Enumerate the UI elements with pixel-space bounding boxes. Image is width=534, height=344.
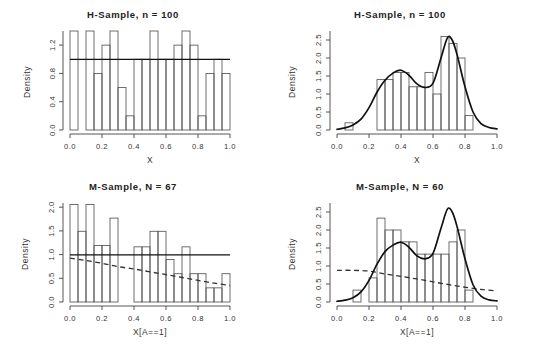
x-axis-label: X (147, 155, 153, 165)
x-axis-group: 0.0 0.2 0.4 0.6 0.8 1.0 (331, 134, 503, 151)
x-tick-label: 0.8 (192, 314, 204, 323)
x-axis-label: X[A==1] (400, 327, 434, 337)
x-tick-label: 0.8 (459, 314, 471, 323)
y-axis-group: 0.0 0.5 1.0 1.5 2.0 2.5 (314, 31, 330, 136)
panel-title: H-Sample, n = 100 (354, 9, 446, 20)
histogram-bar (126, 116, 134, 130)
y-tick-label: 1.0 (314, 260, 323, 272)
y-axis-group: 0.0 0.5 1.0 1.5 2.0 2.5 (314, 203, 330, 308)
histogram-bar (134, 59, 142, 130)
panel-top-right: H-Sample, n = 100 Density X 0.0 0.5 1.0 … (267, 0, 534, 172)
y-tick-label: 0.0 (314, 296, 323, 308)
x-tick-label: 0.0 (64, 314, 76, 323)
histogram-bar (401, 242, 409, 302)
histogram-bar (70, 31, 78, 130)
y-tick-label: 2.5 (314, 34, 323, 46)
histogram-bar (94, 245, 102, 302)
y-tick-label: 2.0 (47, 201, 56, 213)
y-tick-label: 1.0 (314, 88, 323, 100)
panel-top-right-svg: H-Sample, n = 100 Density X 0.0 0.5 1.0 … (267, 0, 534, 172)
histogram-bar (449, 242, 457, 302)
histogram-bar (190, 274, 198, 302)
x-tick-label: 1.0 (224, 314, 236, 323)
histogram-bar (401, 72, 409, 130)
panel-title: M-Sample, N = 60 (356, 181, 444, 192)
histogram-bar (86, 204, 94, 302)
x-tick-label: 0.6 (427, 142, 439, 151)
histogram-bar (158, 231, 166, 302)
panel-title: M-Sample, N = 67 (89, 181, 177, 192)
y-axis-label: Density (287, 66, 297, 98)
histogram-bar (433, 94, 441, 130)
y-tick-label: 0.0 (314, 124, 323, 136)
histogram-bar (150, 31, 158, 130)
x-tick-label: 0.2 (96, 142, 108, 151)
y-axis-label: Density (287, 238, 297, 270)
x-tick-label: 0.6 (160, 142, 172, 151)
y-axis-group: 0.0 0.5 1.0 1.5 2.0 (47, 201, 63, 308)
histogram-bar (142, 59, 150, 130)
figure-grid: H-Sample, n = 100 Density X 0.0 0.4 0.8 … (0, 0, 534, 344)
histogram-bar (110, 218, 118, 302)
histogram-bar (393, 230, 401, 302)
histogram-bar (198, 116, 206, 130)
panel-bottom-left: M-Sample, N = 67 Density X[A==1] 0.0 0.5… (0, 172, 267, 344)
x-tick-label: 0.4 (128, 142, 140, 151)
histogram-bar (222, 73, 230, 130)
histogram-bar (441, 36, 449, 130)
x-tick-label: 0.0 (331, 314, 343, 323)
x-tick-label: 0.6 (427, 314, 439, 323)
x-tick-label: 0.6 (160, 314, 172, 323)
y-tick-label: 2.5 (314, 206, 323, 218)
histogram-bar (70, 204, 78, 302)
x-tick-label: 1.0 (491, 142, 503, 151)
histogram-bar (174, 274, 182, 302)
y-axis-group: 0.0 0.4 0.8 1.2 (48, 31, 63, 136)
x-tick-label: 0.0 (331, 142, 343, 151)
histogram-bars (70, 31, 230, 130)
panel-title: H-Sample, n = 100 (87, 9, 179, 20)
histogram-bar (441, 254, 449, 302)
x-tick-label: 0.0 (64, 142, 76, 151)
histogram-bar (206, 288, 214, 302)
x-tick-label: 0.2 (363, 142, 375, 151)
histogram-bar (377, 218, 385, 302)
histogram-bar (393, 72, 401, 130)
histogram-bar (385, 80, 393, 130)
histogram-bar (150, 231, 158, 302)
histogram-bar (465, 290, 473, 302)
histogram-bar (166, 59, 174, 130)
x-tick-label: 0.4 (128, 314, 140, 323)
histogram-bar (166, 260, 174, 302)
x-tick-label: 0.8 (192, 142, 204, 151)
histogram-bar (425, 72, 433, 130)
histogram-bar (78, 231, 86, 302)
panel-bottom-left-svg: M-Sample, N = 67 Density X[A==1] 0.0 0.5… (0, 172, 267, 344)
histogram-bar (102, 245, 110, 302)
histogram-bar (369, 278, 377, 302)
y-tick-label: 2.0 (314, 52, 323, 64)
histogram-bars (70, 204, 230, 302)
y-tick-label: 1.5 (314, 242, 323, 254)
histogram-bar (409, 87, 417, 130)
histogram-bar (417, 254, 425, 302)
y-tick-label: 1.0 (47, 249, 56, 261)
x-tick-label: 0.8 (459, 142, 471, 151)
x-axis-group: 0.0 0.2 0.4 0.6 0.8 1.0 (331, 306, 503, 323)
y-tick-label: 0.0 (48, 124, 57, 136)
x-axis-group: 0.0 0.2 0.4 0.6 0.8 1.0 (64, 306, 236, 323)
x-tick-label: 0.4 (395, 142, 407, 151)
histogram-bar (433, 254, 441, 302)
histogram-bar (206, 73, 214, 130)
y-tick-label: 1.2 (48, 39, 57, 51)
histogram-bar (385, 230, 393, 302)
histogram-bar (449, 44, 457, 130)
histogram-bar (222, 274, 230, 302)
y-axis-label: Density (22, 66, 32, 98)
x-tick-label: 0.2 (363, 314, 375, 323)
histogram-bar (214, 288, 222, 302)
histogram-bar (174, 45, 182, 130)
x-axis-group: 0.0 0.2 0.4 0.6 0.8 1.0 (64, 134, 236, 151)
y-tick-label: 2.0 (314, 224, 323, 236)
y-axis-label: Density (20, 238, 30, 270)
